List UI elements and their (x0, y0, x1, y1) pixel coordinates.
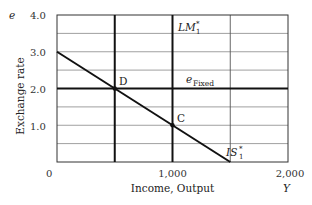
is-label-sub: 1 (239, 153, 243, 161)
x-tick-0: 0 (46, 168, 52, 179)
label-d: D (119, 75, 127, 87)
point-c (170, 123, 174, 127)
y-tick-2: 2.0 (30, 84, 46, 95)
e-fixed-label: e Fixed (186, 73, 214, 88)
y-axis-ticks: 4.0 3.0 2.0 1.0 (30, 10, 46, 132)
x-axis-symbol: Y (283, 182, 291, 194)
y-tick-4: 4.0 (30, 10, 46, 21)
y-axis-symbol: e (9, 9, 15, 21)
lm-label-sup: * (196, 20, 200, 28)
label-c: C (177, 112, 185, 124)
lm-label-main: LM (177, 21, 196, 33)
is-label-main: IS (225, 146, 237, 158)
chart: D C LM * 1 e Fixed IS * 1 4.0 3.0 2.0 1.… (0, 0, 312, 205)
x-axis-label: Income, Output (131, 182, 215, 194)
e-label-main: e (186, 73, 192, 85)
lm-label-sub: 1 (196, 28, 200, 36)
y-tick-3: 3.0 (30, 47, 46, 58)
is-label-sup: * (239, 145, 243, 153)
point-d (113, 86, 117, 90)
x-tick-2000: 2,000 (276, 168, 305, 179)
e-label-sub: Fixed (193, 79, 214, 88)
x-tick-1000: 1,000 (158, 168, 187, 179)
y-tick-1: 1.0 (30, 121, 46, 132)
y-axis-label: Exchange rate (14, 57, 26, 134)
is-star-label: IS * 1 (225, 145, 243, 161)
x-axis-ticks: 0 1,000 2,000 (46, 168, 304, 179)
